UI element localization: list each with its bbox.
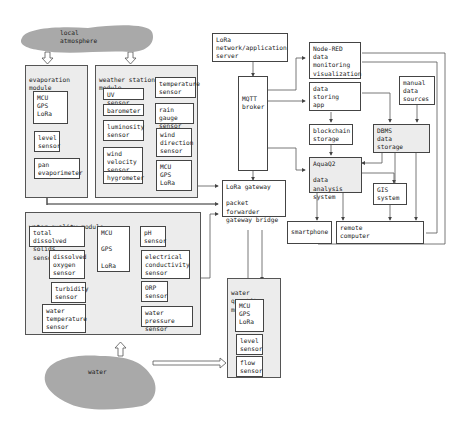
water-quantity-mcu: MCU GPS LoRa bbox=[235, 299, 264, 332]
aquaq2-data-analysis-system: AquaQ2 data analysis system bbox=[309, 157, 362, 193]
gis-system: GIS system bbox=[373, 183, 407, 205]
wind-direction-sensor: wind direction sensor bbox=[156, 128, 192, 157]
lora-network-application-server: LoRa network/application server bbox=[212, 33, 288, 62]
data-storing-app: data storing app bbox=[309, 82, 361, 111]
water-quantity-level-sensor: level sensor bbox=[236, 334, 263, 355]
weather-station-mcu: MCU GPS LoRa bbox=[156, 160, 192, 191]
uv-sensor: UV sensor bbox=[103, 88, 144, 100]
rain-gauge-sensor: rain gauge sensor bbox=[155, 103, 194, 124]
electrical-conductivity-sensor: electrical conductivity sensor bbox=[141, 250, 190, 279]
turbidity-sensor: turbidity sensor bbox=[51, 282, 86, 303]
water-quality-mcu: MCU GPS LoRa bbox=[97, 226, 130, 272]
luminosity-sensor: luminosity sensor bbox=[103, 120, 144, 141]
water-pressure-sensor: water pressure sensor bbox=[141, 306, 193, 327]
dissolved-oxygen-sensor: dissolved oxygen sensor bbox=[49, 250, 85, 279]
barometer: barometer bbox=[103, 104, 144, 116]
temperature-sensor: temperature sensor bbox=[155, 77, 196, 98]
pan-evaporimeter: pan evaporimeter bbox=[34, 158, 80, 179]
lora-gateway: LoRa gateway packet forwarder gateway br… bbox=[222, 180, 286, 217]
blockchain-storage: blockchain storage bbox=[309, 124, 353, 145]
remote-computer: remote computer bbox=[336, 221, 424, 244]
mqtt-broker: MQTT broker bbox=[238, 76, 268, 171]
node-red: Node-RED data monitoring visualization bbox=[309, 42, 361, 79]
manual-data-sources: manual data sources bbox=[399, 76, 435, 105]
evaporation-mcu: MCU GPS LoRa bbox=[33, 91, 68, 124]
dbms-data-storage: DBMS data storage bbox=[373, 124, 430, 153]
flow-sensor: flow sensor bbox=[236, 356, 263, 377]
hygrometer: hygrometer bbox=[103, 171, 143, 184]
smartphone: smartphone bbox=[287, 221, 332, 244]
local-atmosphere-label: local atmosphere bbox=[60, 29, 97, 45]
ph-sensor: pH sensor bbox=[140, 226, 166, 247]
water-body bbox=[38, 352, 168, 412]
evaporation-module-title: evaporation module bbox=[29, 76, 70, 91]
water-temperature-sensor: water temperature sensor bbox=[42, 304, 86, 333]
water-label: water bbox=[88, 368, 107, 376]
orp-sensor: ORP sensor bbox=[141, 281, 168, 302]
evaporation-level-sensor: level sensor bbox=[34, 131, 60, 152]
total-dissolved-solids-sensor: total dissolved solids sensor bbox=[29, 226, 85, 247]
